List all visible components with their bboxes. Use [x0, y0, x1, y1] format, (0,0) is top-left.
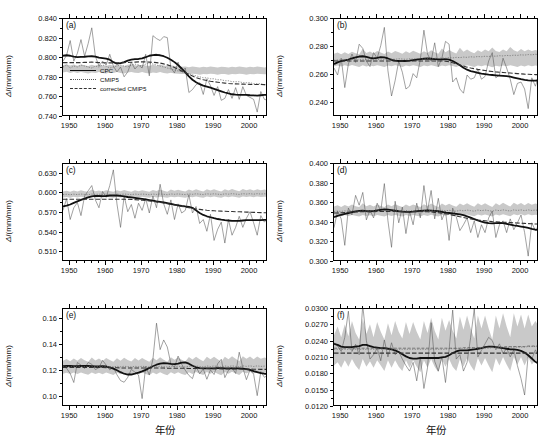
x-top-tickmark — [520, 304, 521, 308]
x-minor-tickmark — [199, 406, 200, 408]
x-top-tickmark — [340, 304, 341, 308]
y-axis-label: ΔI(mm/mm) — [4, 200, 13, 242]
x-top-tickmark — [412, 14, 413, 18]
x-top-tickmark — [383, 16, 384, 18]
x-minor-tickmark — [441, 261, 442, 263]
y-tickmark — [59, 173, 63, 174]
x-top-tickmark — [69, 14, 70, 18]
x-top-tickmark — [249, 304, 250, 308]
panel-title: (c) — [66, 165, 75, 175]
x-top-tickmark — [148, 161, 149, 163]
y-tick-label: 0.320 — [290, 237, 328, 246]
series-line — [334, 209, 538, 230]
x-tick-label: 1960 — [97, 411, 114, 420]
x-minor-tickmark — [477, 261, 478, 263]
x-tick-label: 1960 — [368, 121, 385, 130]
x-tickmark — [105, 406, 106, 410]
x-top-tickmark — [177, 14, 178, 18]
x-top-tickmark — [362, 306, 363, 308]
x-top-tickmark — [484, 159, 485, 163]
series-line — [334, 61, 538, 75]
x-tickmark — [520, 261, 521, 265]
plot-area — [62, 163, 267, 261]
y-tick-label: 0.16 — [19, 314, 57, 323]
x-minor-tickmark — [506, 406, 507, 408]
x-top-tickmark — [105, 159, 106, 163]
y-minor-tickmark — [331, 192, 333, 193]
y-minor-tickmark — [331, 60, 333, 61]
panel-title: (f) — [337, 310, 344, 320]
x-tickmark — [376, 406, 377, 410]
x-minor-tickmark — [491, 261, 492, 263]
x-top-tickmark — [376, 14, 377, 18]
y-tickmark — [59, 318, 63, 319]
y-tickmark — [330, 163, 334, 164]
x-minor-tickmark — [148, 261, 149, 263]
x-minor-tickmark — [112, 261, 113, 263]
x-minor-tickmark — [235, 406, 236, 408]
x-top-tickmark — [127, 16, 128, 18]
x-top-tickmark — [455, 161, 456, 163]
y-axis-label: ΔI(mm/mm) — [275, 345, 284, 387]
x-minor-tickmark — [355, 406, 356, 408]
x-minor-tickmark — [347, 406, 348, 408]
x-top-tickmark — [369, 161, 370, 163]
y-tickmark — [59, 38, 63, 39]
x-minor-tickmark — [163, 116, 164, 118]
x-top-tickmark — [98, 161, 99, 163]
y-tick-label: 0.300 — [290, 257, 328, 266]
x-top-tickmark — [441, 161, 442, 163]
series-line — [63, 362, 267, 374]
x-minor-tickmark — [362, 116, 363, 118]
x-top-tickmark — [84, 161, 85, 163]
plot-area — [62, 308, 267, 406]
series-line — [63, 195, 267, 221]
x-tickmark — [448, 116, 449, 120]
x-minor-tickmark — [112, 116, 113, 118]
x-minor-tickmark — [120, 116, 121, 118]
series-canvas — [63, 164, 267, 261]
x-minor-tickmark — [127, 406, 128, 408]
x-minor-tickmark — [263, 116, 264, 118]
legend-item: corrected CMIP5 — [70, 84, 146, 93]
x-minor-tickmark — [84, 116, 85, 118]
y-minor-tickmark — [331, 88, 333, 89]
y-tickmark — [59, 251, 63, 252]
x-top-tickmark — [441, 306, 442, 308]
x-top-tickmark — [355, 306, 356, 308]
x-top-tickmark — [498, 161, 499, 163]
y-tickmark — [59, 96, 63, 97]
x-top-tickmark — [256, 16, 257, 18]
x-minor-tickmark — [441, 406, 442, 408]
x-top-tickmark — [534, 16, 535, 18]
panel-title: (d) — [337, 165, 347, 175]
y-tick-label: 0.10 — [19, 391, 57, 400]
x-tick-label: 1950 — [61, 121, 78, 130]
x-tick-label: 1960 — [97, 121, 114, 130]
x-minor-tickmark — [462, 116, 463, 118]
y-minor-tickmark — [60, 357, 62, 358]
y-tickmark — [59, 232, 63, 233]
x-tick-label: 2000 — [241, 121, 258, 130]
x-top-tickmark — [235, 161, 236, 163]
y-tick-label: 0.0300 — [290, 304, 328, 313]
x-minor-tickmark — [256, 406, 257, 408]
y-tickmark — [330, 390, 334, 391]
x-minor-tickmark — [369, 261, 370, 263]
x-top-tickmark — [383, 161, 384, 163]
y-tick-label: 0.340 — [290, 217, 328, 226]
y-tickmark — [59, 192, 63, 193]
y-tick-label: 0.280 — [290, 42, 328, 51]
x-top-tickmark — [427, 16, 428, 18]
x-tick-label: 1980 — [440, 121, 457, 130]
x-top-tickmark — [206, 16, 207, 18]
x-tickmark — [69, 406, 70, 410]
x-tick-label: 1990 — [205, 411, 222, 420]
y-tick-label: 0.0120 — [290, 402, 328, 411]
plot-area — [333, 18, 538, 116]
x-minor-tickmark — [391, 116, 392, 118]
y-minor-tickmark — [331, 382, 333, 383]
x-top-tickmark — [434, 161, 435, 163]
series-line — [63, 366, 267, 367]
x-minor-tickmark — [163, 261, 164, 263]
